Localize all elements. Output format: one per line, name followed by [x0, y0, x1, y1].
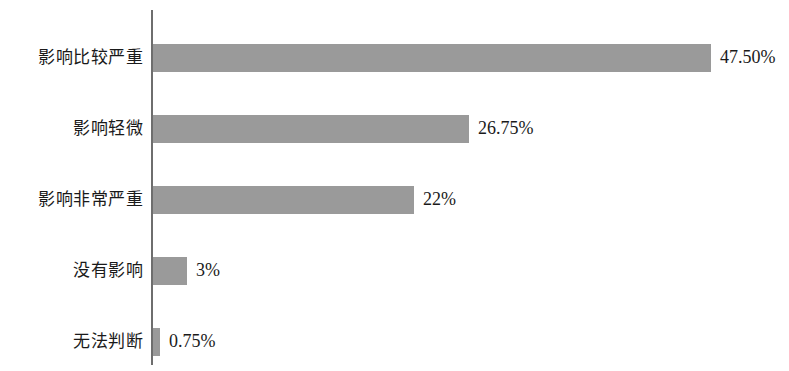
category-label: 影响非常严重 — [4, 164, 149, 235]
bar[interactable] — [153, 186, 414, 214]
bar-value-label: 3% — [196, 260, 220, 281]
bar-value-label: 22% — [423, 189, 456, 210]
bar-group: 3% — [153, 235, 220, 306]
bar-value-label: 47.50% — [720, 47, 776, 68]
category-label: 影响轻微 — [4, 93, 149, 164]
bar-group: 47.50% — [153, 22, 776, 93]
chart-row: 影响非常严重 22% — [0, 164, 789, 235]
category-label: 影响比较严重 — [4, 22, 149, 93]
bar-group: 26.75% — [153, 93, 534, 164]
bar-chart: 影响比较严重 47.50% 影响轻微 26.75% 影响非常严重 22% 没有影… — [0, 0, 789, 371]
bar[interactable] — [153, 115, 469, 143]
category-label: 没有影响 — [4, 235, 149, 306]
chart-row: 无法判断 0.75% — [0, 306, 789, 371]
chart-row: 影响轻微 26.75% — [0, 93, 789, 164]
category-label: 无法判断 — [4, 306, 149, 371]
bar-value-label: 0.75% — [169, 331, 216, 352]
chart-row: 没有影响 3% — [0, 235, 789, 306]
bar[interactable] — [153, 257, 187, 285]
bar-group: 0.75% — [153, 306, 216, 371]
bar[interactable] — [153, 328, 160, 356]
bar[interactable] — [153, 44, 711, 72]
bar-group: 22% — [153, 164, 456, 235]
bar-value-label: 26.75% — [478, 118, 534, 139]
chart-row: 影响比较严重 47.50% — [0, 22, 789, 93]
